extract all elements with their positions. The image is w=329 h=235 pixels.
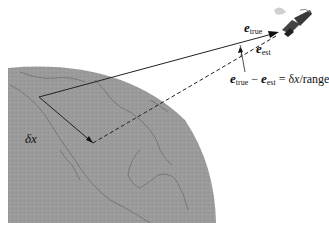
eq-minus: − [251, 72, 258, 86]
eq-e-true-subscript: true [236, 78, 248, 87]
eq-range: /range [299, 72, 329, 86]
e-true-subscript: true [250, 27, 262, 36]
eq-equals: = [276, 72, 289, 86]
error-equation: etrue − eest = δx/range [230, 72, 329, 87]
delta-x-label: δx [25, 132, 37, 145]
e-true-label: etrue [244, 21, 262, 36]
delta-x-symbol: x [31, 131, 37, 146]
equation-leader-line [241, 50, 245, 72]
e-est-subscript: est [262, 48, 271, 57]
e-true-vector [39, 33, 276, 97]
satellite-icon [274, 7, 312, 37]
earth-globe [8, 67, 216, 230]
e-est-label: eest [256, 42, 271, 57]
eq-e-est-subscript: est [267, 78, 276, 87]
leader-arrowhead [238, 47, 243, 53]
